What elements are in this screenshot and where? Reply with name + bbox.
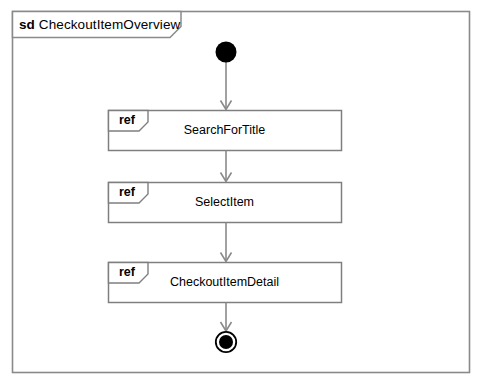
frame-title: sd CheckoutItemOverview bbox=[19, 18, 180, 32]
final-node-core bbox=[219, 335, 233, 349]
ref-fragment-label-searchfortitle: SearchForTitle bbox=[108, 124, 341, 137]
frame-keyword: sd bbox=[19, 17, 35, 32]
ref-fragment-label-selectitem: SelectItem bbox=[108, 196, 341, 209]
diagram-vector-layer bbox=[0, 0, 482, 381]
frame-name: CheckoutItemOverview bbox=[39, 17, 181, 32]
ref-fragment-label-checkoutitemdetail: CheckoutItemDetail bbox=[108, 276, 341, 289]
final-node[interactable] bbox=[216, 332, 236, 352]
diagram-canvas: sd CheckoutItemOverview ref SearchForTit… bbox=[0, 0, 482, 381]
initial-node[interactable] bbox=[216, 42, 237, 63]
